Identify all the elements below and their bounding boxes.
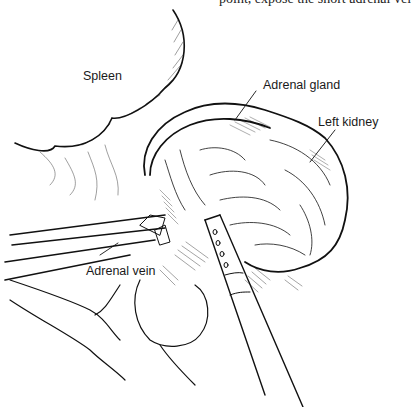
- adrenal-gland-leader: [235, 91, 256, 120]
- lower-structures: [10, 280, 208, 385]
- label-spleen: Spleen: [83, 69, 122, 83]
- label-left-kidney: Left kidney: [318, 115, 378, 129]
- adrenal-vein-leader: [100, 243, 118, 255]
- label-adrenal-gland: Adrenal gland: [263, 78, 340, 92]
- label-adrenal-vein: Adrenal vein: [86, 264, 156, 278]
